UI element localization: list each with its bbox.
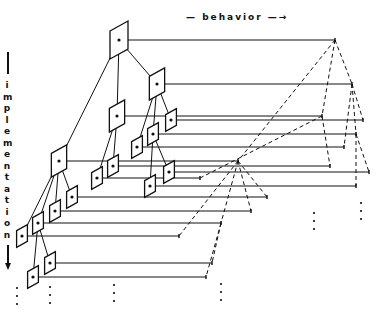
module-node-dot — [167, 170, 170, 173]
behavior-tree-edge — [322, 116, 330, 166]
implementation-behavior-diagram — [0, 0, 386, 322]
continuation-dot — [49, 294, 51, 296]
behavior-tree-edge — [212, 223, 221, 263]
module-node-dot — [53, 209, 56, 212]
continuation-dot — [220, 283, 222, 285]
continuation-dot — [113, 284, 115, 286]
continuation-dot — [220, 299, 222, 301]
module-node-dot — [169, 118, 172, 121]
continuation-dot — [313, 212, 315, 214]
continuation-dot — [49, 286, 51, 288]
behavior-tree-edge — [344, 84, 352, 147]
behavior-tree-edge — [221, 161, 238, 223]
behavior-tree-edge — [352, 84, 363, 120]
module-node-dot — [111, 164, 114, 167]
module-node-dot — [48, 261, 51, 264]
continuation-dot — [16, 303, 18, 305]
behavior-tree-edge — [356, 134, 369, 172]
continuation-dot — [313, 220, 315, 222]
module-node-dot — [117, 38, 120, 41]
behavior-tree-edge — [322, 40, 335, 116]
module-node-dot — [151, 132, 154, 135]
continuation-dot — [113, 300, 115, 302]
continuation-dot — [49, 302, 51, 304]
module-node-dot — [135, 145, 138, 148]
behavior-tree-edge — [238, 40, 335, 161]
module-node-dot — [95, 176, 98, 179]
module-node-dot — [57, 159, 60, 162]
continuation-dot — [360, 218, 362, 220]
module-node-dot — [148, 184, 151, 187]
module-node-dot — [20, 234, 23, 237]
continuation-dot — [360, 202, 362, 204]
continuation-dot — [16, 295, 18, 297]
behavior-tree-edge — [206, 223, 221, 277]
module-node-dot — [31, 275, 34, 278]
behavior-tree-edge — [335, 40, 352, 84]
continuation-dot — [360, 210, 362, 212]
continuation-dot — [220, 291, 222, 293]
module-node-dot — [36, 221, 39, 224]
continuation-dot — [313, 228, 315, 230]
module-node-dot — [115, 114, 118, 117]
continuation-dot — [113, 292, 115, 294]
module-node-dot — [70, 195, 73, 198]
continuation-dot — [16, 287, 18, 289]
module-node-dot — [155, 82, 158, 85]
